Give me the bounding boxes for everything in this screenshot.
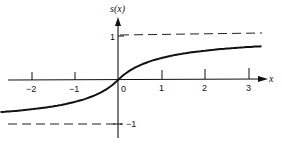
x-ticks: [32, 68, 249, 80]
x-axis: [8, 79, 262, 80]
chart-svg: s(x) x −2 −1 0 1 2 3 1 −1: [0, 0, 282, 144]
x-tick-label: −1: [69, 84, 79, 94]
x-tick-label: 0: [121, 84, 126, 94]
y-axis-label: s(x): [110, 3, 126, 15]
y-axis-arrow-icon: [115, 17, 121, 26]
x-tick-label: 3: [246, 83, 251, 93]
x-axis-arrow-icon: [258, 76, 268, 82]
y-tick-label: −1: [126, 119, 136, 129]
y-tick-label: 1: [110, 32, 115, 42]
x-tick-label: −2: [26, 84, 36, 94]
x-tick-label: 1: [159, 83, 164, 93]
x-axis-label: x: [268, 73, 274, 84]
sigmoid-chart: s(x) x −2 −1 0 1 2 3 1 −1: [0, 0, 282, 144]
asymptote-upper: [120, 33, 262, 35]
x-tick-label: 2: [202, 83, 207, 93]
